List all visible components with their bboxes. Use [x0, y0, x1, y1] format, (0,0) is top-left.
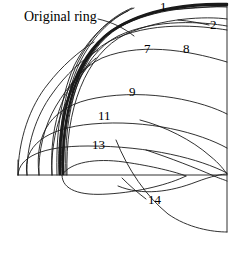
- curve-label-8: 8: [183, 42, 190, 55]
- figure-ring-mode-shapes: Original ring 1 2 7 8 9 11 13 14: [0, 0, 239, 260]
- curve-label-2: 2: [210, 18, 217, 31]
- curve-label-9: 9: [129, 85, 136, 98]
- curve-label-11: 11: [98, 109, 111, 122]
- figure-canvas: [0, 0, 239, 260]
- figure-background: [0, 0, 239, 260]
- curve-label-1: 1: [160, 0, 167, 13]
- original-ring-label: Original ring: [24, 10, 97, 24]
- curve-label-13: 13: [92, 138, 105, 151]
- curve-label-14: 14: [148, 193, 161, 206]
- curve-label-7: 7: [144, 42, 151, 55]
